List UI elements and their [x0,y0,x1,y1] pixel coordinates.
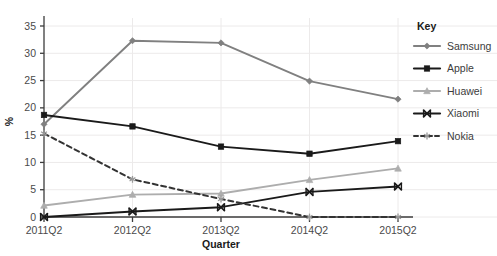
data-point-marker [395,96,401,102]
y-tick-label: 20 [24,101,36,113]
legend-item-label: Samsung [447,40,492,52]
gridlines [44,18,497,217]
legend-item-xiaomi[interactable]: Xiaomi [414,107,479,119]
data-point-marker [41,112,46,117]
legend-item-label: Huawei [447,85,482,97]
x-tick-label: 2015Q2 [379,224,417,236]
x-tick-label: 2013Q2 [202,224,240,236]
legend-item-label: Apple [447,62,474,74]
x-tick-label: 2014Q2 [291,224,329,236]
x-tick-label: 2012Q2 [114,224,152,236]
y-tick-label: 15 [24,129,36,141]
x-axis-title: Quarter [202,238,240,250]
legend-item-samsung[interactable]: Samsung [414,40,492,52]
axis-ticks [40,26,398,222]
data-point-marker [424,43,430,49]
y-axis-tick-labels: 05101520253035 [24,20,36,223]
data-point-marker [218,40,224,46]
legend-item-huawei[interactable]: Huawei [414,85,482,97]
data-point-marker [306,78,312,84]
legend-title: Key [417,20,436,32]
y-tick-label: 25 [24,74,36,86]
line-chart: 05101520253035 2011Q22012Q22013Q22014Q22… [0,0,497,256]
y-axis-title: % [3,116,15,126]
x-tick-label: 2011Q2 [26,224,63,236]
x-axis-tick-labels: 2011Q22012Q22013Q22014Q22015Q2 [26,224,417,236]
y-tick-label: 30 [24,47,36,59]
y-tick-label: 35 [24,20,36,32]
chart-canvas: 05101520253035 2011Q22012Q22013Q22014Q22… [0,0,497,256]
y-tick-label: 10 [24,156,36,168]
legend-item-label: Nokia [447,130,474,142]
legend-item-label: Xiaomi [447,107,479,119]
data-point-marker [307,151,312,156]
legend-item-nokia[interactable]: Nokia [414,130,474,142]
data-point-marker [424,66,429,71]
legend-item-apple[interactable]: Apple [414,62,474,74]
y-tick-label: 5 [30,183,36,195]
data-point-marker [395,138,400,143]
data-point-marker [218,144,223,149]
y-tick-label: 0 [30,211,36,223]
data-point-marker [130,124,135,129]
